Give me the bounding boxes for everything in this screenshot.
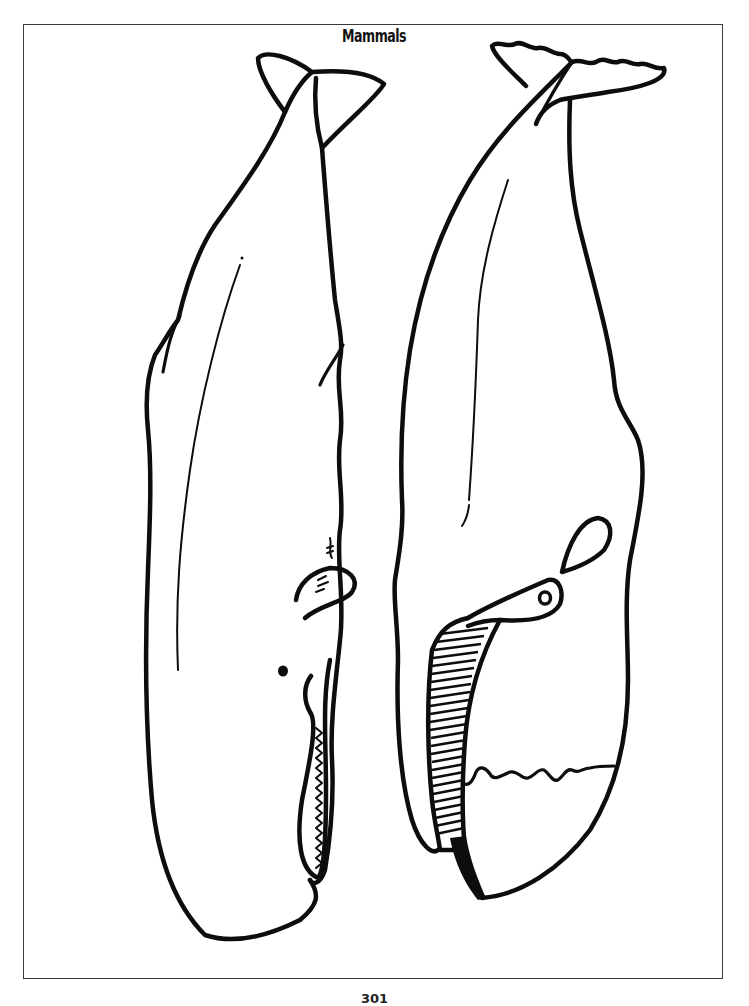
sperm-whale-hump-ridge	[163, 316, 180, 372]
baleen-whale-short-line	[462, 505, 469, 526]
sperm-whale	[146, 54, 384, 939]
page-title: Mammals	[67, 26, 681, 46]
sperm-whale-tail-fluke-right	[312, 71, 384, 148]
baleen-whale-eye	[540, 592, 551, 604]
baleen-whale-lateral-line	[469, 180, 508, 500]
baleen-whale-jaw-tip	[450, 836, 486, 900]
page-number: 301	[0, 992, 749, 1005]
sperm-whale-back-outline	[146, 112, 316, 939]
sperm-whale-teeth	[316, 728, 322, 868]
baleen-whale-wavy-line	[465, 766, 614, 784]
sperm-whale-tail-fluke-left	[258, 54, 312, 112]
baleen-plates	[430, 628, 488, 834]
sperm-whale-wrinkles	[327, 538, 333, 558]
sperm-whale-eye	[278, 666, 288, 677]
baleen-whale	[395, 43, 665, 900]
sperm-whale-lateral-line	[177, 265, 240, 670]
sperm-whale-fin-marks	[316, 576, 328, 592]
baleen-whale-tail-fluke-right	[536, 60, 664, 124]
sperm-whale-lower-jaw	[299, 660, 330, 878]
baleen-whale-pectoral-fin	[562, 518, 610, 572]
sperm-whale-skin-spot	[241, 257, 244, 260]
baleen-whale-back-outline	[395, 62, 572, 851]
